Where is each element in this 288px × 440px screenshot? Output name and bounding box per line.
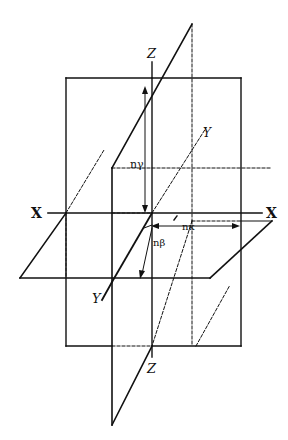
normal-vector-kappa [151, 223, 240, 229]
z-axis-label-bottom: Z [146, 361, 157, 376]
y-axis-label-bottom: Y [92, 291, 102, 306]
n-kappa-label: nκ [182, 221, 195, 232]
y-axis [66, 128, 230, 346]
n-gamma-label: nγ [130, 158, 144, 171]
y-axis-label-top: Y [203, 126, 212, 140]
n-beta-label: nβ [153, 237, 165, 248]
x-axis-label-left: X [31, 205, 42, 221]
x-axis-label-right: X [266, 205, 277, 221]
diagram-canvas: X X Z Z Y Y nγ nκ nβ [0, 0, 288, 440]
z-axis-label-top: Z [146, 46, 157, 61]
